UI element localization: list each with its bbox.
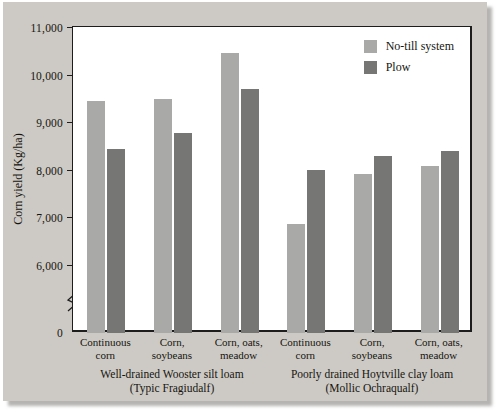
- y-tick-7000: 7,000: [67, 217, 73, 218]
- y-tick-label: 9,000: [36, 117, 63, 129]
- y-tick-label: 7,000: [36, 212, 63, 224]
- y-tick-label: 6,000: [36, 260, 63, 272]
- bar-no-till-system-1: [154, 99, 172, 333]
- bar-no-till-system-4: [354, 174, 372, 333]
- y-axis-title-container: Corn yield (Kg/ha): [8, 26, 28, 332]
- legend-item-plow: Plow: [364, 60, 454, 75]
- group-caption-0: Well-drained Wooster silt loam (Typic Fr…: [62, 368, 282, 395]
- y-tick-11000: 11,000: [67, 27, 73, 28]
- y-tick-9000: 9,000: [67, 122, 73, 123]
- y-tick-label: 10,000: [30, 70, 63, 82]
- bar-no-till-system-0: [87, 101, 105, 333]
- group-caption-1: Poorly drained Hoytville clay loam (Moll…: [262, 368, 482, 395]
- y-axis-title: Corn yield (Kg/ha): [11, 133, 26, 224]
- bar-no-till-system-5: [421, 166, 439, 333]
- bar-plow-4: [374, 156, 392, 333]
- legend-swatch-icon: [364, 40, 377, 53]
- bar-no-till-system-2: [221, 53, 239, 333]
- y-tick-label: 11,000: [31, 22, 63, 34]
- figure: Corn yield (Kg/ha) No-till systemPlow 11…: [0, 0, 497, 413]
- bar-plow-3: [307, 170, 325, 334]
- bar-no-till-system-3: [287, 224, 305, 333]
- x-axis-category-label: Corn, oats, meadow: [394, 336, 484, 361]
- bar-plow-5: [441, 151, 459, 334]
- plot-area: No-till systemPlow 11,00010,0009,0008,00…: [72, 26, 472, 332]
- legend-item-no-till-system: No-till system: [364, 39, 454, 54]
- y-tick-8000: 8,000: [67, 170, 73, 171]
- bar-plow-2: [241, 89, 259, 333]
- y-tick-6000: 6,000: [67, 265, 73, 266]
- legend-label: Plow: [386, 60, 411, 75]
- legend-label: No-till system: [386, 39, 454, 54]
- bar-plow-0: [107, 149, 125, 333]
- legend: No-till systemPlow: [364, 39, 454, 81]
- y-tick-10000: 10,000: [67, 75, 73, 76]
- bar-plow-1: [174, 133, 192, 333]
- y-tick-label: 8,000: [36, 165, 63, 177]
- legend-swatch-icon: [364, 61, 377, 74]
